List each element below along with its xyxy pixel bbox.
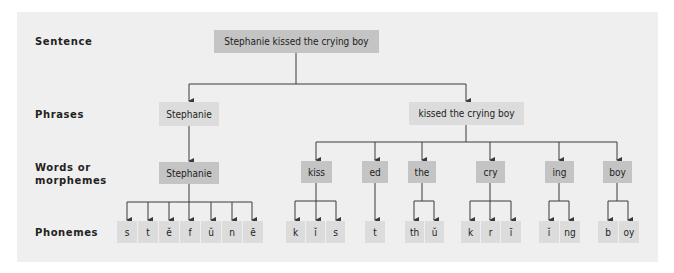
- phoneme-node: f: [180, 221, 200, 243]
- phoneme-node: ē: [243, 221, 263, 243]
- phoneme-node: ŭ: [425, 221, 444, 243]
- morpheme-node-cry: cry: [476, 161, 505, 183]
- phoneme-node: ĕ: [159, 221, 179, 243]
- sentence-node: Stephanie kissed the crying boy: [214, 30, 379, 53]
- morpheme-node-stephanie: Stephanie: [159, 162, 219, 184]
- phoneme-node: ĭ: [306, 221, 325, 243]
- phoneme-node: ŭ: [201, 221, 221, 243]
- phoneme-node: t: [138, 221, 158, 243]
- phrase-node-stephanie: Stephanie: [159, 102, 219, 126]
- phoneme-node: b: [598, 221, 618, 243]
- morpheme-node-ed: ed: [362, 161, 388, 183]
- morpheme-node-boy: boy: [603, 161, 632, 183]
- phoneme-node: k: [286, 221, 305, 243]
- phoneme-node: s: [117, 221, 137, 243]
- phoneme-node: ī: [501, 221, 521, 243]
- phoneme-node: t: [365, 221, 385, 243]
- phoneme-node: r: [481, 221, 500, 243]
- morpheme-node-ing: ing: [545, 161, 574, 183]
- phrase-node-kissed-the-crying-boy: kissed the crying boy: [409, 102, 524, 125]
- phoneme-node: ng: [560, 221, 580, 243]
- phoneme-node: th: [405, 221, 424, 243]
- phoneme-node: s: [326, 221, 345, 243]
- phoneme-node: ĭ: [539, 221, 559, 243]
- phoneme-node: oy: [619, 221, 639, 243]
- morpheme-node-the: the: [408, 161, 436, 183]
- phoneme-node: k: [461, 221, 480, 243]
- phoneme-node: n: [222, 221, 242, 243]
- morpheme-node-kiss: kiss: [301, 161, 332, 183]
